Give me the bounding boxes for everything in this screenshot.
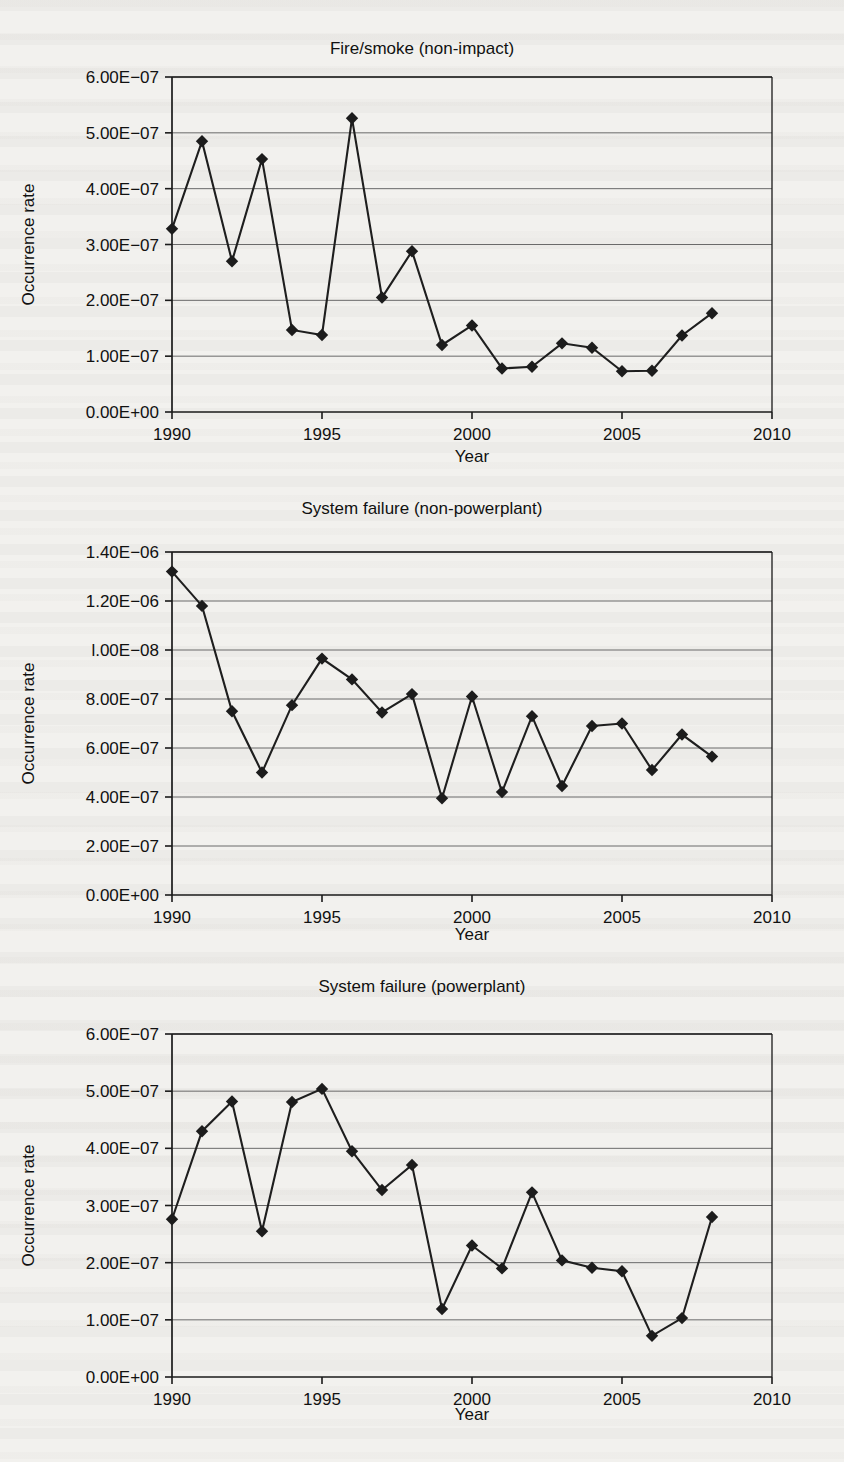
data-point-marker bbox=[556, 780, 568, 792]
y-tick-label: 2.00E−07 bbox=[86, 837, 159, 856]
y-tick-label: 0.00E+00 bbox=[86, 403, 159, 422]
data-point-marker bbox=[436, 792, 448, 804]
y-tick-label: 1.20E−06 bbox=[86, 592, 159, 611]
data-point-marker bbox=[526, 710, 538, 722]
x-tick-label: 1995 bbox=[303, 1390, 341, 1409]
data-point-marker bbox=[286, 1096, 298, 1108]
y-tick-label: 4.00E−07 bbox=[86, 180, 159, 199]
chart-title: System failure (powerplant) bbox=[319, 977, 526, 996]
series-line bbox=[172, 1089, 712, 1336]
y-tick-label: 5.00E−07 bbox=[86, 124, 159, 143]
y-tick-label: 1.00E−07 bbox=[86, 1311, 159, 1330]
y-tick-label: 2.00E−07 bbox=[86, 1254, 159, 1273]
data-point-marker bbox=[586, 1262, 598, 1274]
x-tick-label: 1990 bbox=[153, 908, 191, 927]
x-tick-label: 1990 bbox=[153, 1390, 191, 1409]
y-tick-label: 8.00E−07 bbox=[86, 690, 159, 709]
chart-svg: System failure (powerplant)0.00E+001.00E… bbox=[0, 952, 844, 1432]
data-point-marker bbox=[316, 652, 328, 664]
y-tick-label: 6.00E−07 bbox=[86, 68, 159, 87]
data-point-marker bbox=[226, 705, 238, 717]
data-point-marker bbox=[256, 1225, 268, 1237]
data-point-marker bbox=[556, 1254, 568, 1266]
y-tick-label: 3.00E−07 bbox=[86, 1197, 159, 1216]
data-point-marker bbox=[256, 153, 268, 165]
x-tick-label: 2010 bbox=[753, 425, 791, 444]
data-point-marker bbox=[286, 324, 298, 336]
y-tick-label: 0.00E+00 bbox=[86, 886, 159, 905]
data-point-marker bbox=[676, 1312, 688, 1324]
data-point-marker bbox=[166, 1213, 178, 1225]
data-point-marker bbox=[466, 690, 478, 702]
data-point-marker bbox=[526, 1186, 538, 1198]
data-point-marker bbox=[406, 688, 418, 700]
data-point-marker bbox=[256, 766, 268, 778]
data-point-marker bbox=[316, 329, 328, 341]
y-tick-label: l.00E−08 bbox=[91, 641, 159, 660]
chart-system-failure-powerplant: System failure (powerplant)0.00E+001.00E… bbox=[0, 952, 844, 1432]
chart-title: System failure (non-powerplant) bbox=[302, 499, 543, 518]
x-tick-label: 1995 bbox=[303, 425, 341, 444]
data-point-marker bbox=[166, 223, 178, 235]
chart-title: Fire/smoke (non-impact) bbox=[330, 39, 514, 58]
data-point-marker bbox=[616, 717, 628, 729]
y-tick-label: 2.00E−07 bbox=[86, 291, 159, 310]
data-point-marker bbox=[496, 786, 508, 798]
y-tick-label: 6.00E−07 bbox=[86, 1025, 159, 1044]
y-tick-label: 4.00E−07 bbox=[86, 788, 159, 807]
data-point-marker bbox=[286, 699, 298, 711]
data-point-marker bbox=[436, 1303, 448, 1315]
data-point-marker bbox=[586, 720, 598, 732]
data-point-marker bbox=[376, 291, 388, 303]
x-axis-label: Year bbox=[455, 1405, 490, 1424]
x-tick-label: 2005 bbox=[603, 1390, 641, 1409]
data-point-marker bbox=[196, 135, 208, 147]
data-point-marker bbox=[226, 255, 238, 267]
x-tick-label: 1990 bbox=[153, 425, 191, 444]
x-tick-label: 2010 bbox=[753, 908, 791, 927]
data-point-marker bbox=[316, 1083, 328, 1095]
data-point-marker bbox=[496, 362, 508, 374]
y-tick-label: 1.40E−06 bbox=[86, 543, 159, 562]
y-tick-label: 0.00E+00 bbox=[86, 1368, 159, 1387]
y-axis-label: Occurrence rate bbox=[19, 184, 38, 306]
y-tick-label: 4.00E−07 bbox=[86, 1139, 159, 1158]
data-point-marker bbox=[706, 1211, 718, 1223]
chart-fire-smoke-non-impact: Fire/smoke (non-impact)0.00E+001.00E−072… bbox=[0, 22, 844, 477]
chart-system-failure-non-powerplant: System failure (non-powerplant)0.00E+002… bbox=[0, 480, 844, 950]
y-axis-label: Occurrence rate bbox=[19, 663, 38, 785]
x-axis-label: Year bbox=[455, 447, 490, 466]
data-point-marker bbox=[616, 1265, 628, 1277]
x-tick-label: 2005 bbox=[603, 425, 641, 444]
data-point-marker bbox=[646, 1330, 658, 1342]
chart-svg: Fire/smoke (non-impact)0.00E+001.00E−072… bbox=[0, 22, 844, 477]
y-tick-label: 3.00E−07 bbox=[86, 236, 159, 255]
data-point-marker bbox=[406, 245, 418, 257]
y-tick-label: 5.00E−07 bbox=[86, 1082, 159, 1101]
chart-svg: System failure (non-powerplant)0.00E+002… bbox=[0, 480, 844, 950]
y-axis-label: Occurrence rate bbox=[19, 1145, 38, 1267]
x-tick-label: 2000 bbox=[453, 425, 491, 444]
x-axis-label: Year bbox=[455, 925, 490, 944]
x-tick-label: 2010 bbox=[753, 1390, 791, 1409]
data-point-marker bbox=[466, 319, 478, 331]
data-point-marker bbox=[436, 339, 448, 351]
series-line bbox=[172, 572, 712, 799]
x-tick-label: 1995 bbox=[303, 908, 341, 927]
y-tick-label: 1.00E−07 bbox=[86, 347, 159, 366]
x-tick-label: 2005 bbox=[603, 908, 641, 927]
y-tick-label: 6.00E−07 bbox=[86, 739, 159, 758]
data-point-marker bbox=[346, 112, 358, 124]
